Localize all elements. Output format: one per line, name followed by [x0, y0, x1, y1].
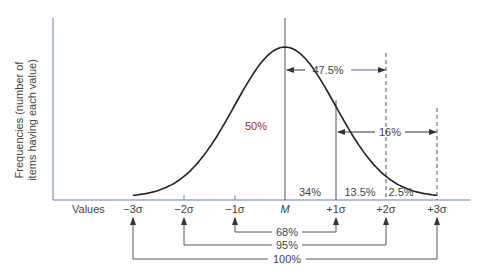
label-34: 34% [299, 186, 321, 198]
label-100: 100% [273, 253, 301, 265]
tick-plus-3-sigma: +3σ [427, 203, 447, 215]
label-50: 50% [245, 120, 267, 132]
label-16: 16% [379, 126, 401, 138]
x-axis-ticks [184, 195, 235, 200]
normal-distribution-plot: 47.5% 16% 50% 34% 13.5% 2.5% Values −3σ … [0, 0, 484, 276]
tick-plus-1-sigma: +1σ [326, 203, 346, 215]
tick-plus-2-sigma: +2σ [376, 203, 396, 215]
tick-minus-2-sigma: −2σ [174, 203, 194, 215]
x-tick-labels: −3σ −2σ −1σ M +1σ +2σ +3σ [123, 203, 447, 215]
label-47-5: 47.5% [312, 64, 343, 76]
x-axis-label: Values [72, 203, 105, 215]
tick-minus-3-sigma: −3σ [123, 203, 143, 215]
label-2-5: 2.5% [388, 186, 413, 198]
label-95: 95% [276, 239, 298, 251]
label-13-5: 13.5% [344, 186, 375, 198]
tick-mean: M [280, 203, 290, 215]
tick-minus-1-sigma: −1σ [225, 203, 245, 215]
label-68: 68% [276, 226, 298, 238]
